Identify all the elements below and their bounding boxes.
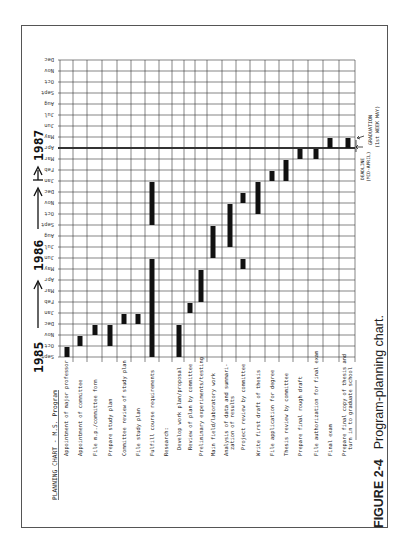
- task-label: turn in to graduate school: [347, 367, 354, 450]
- task-label: Research:: [163, 427, 169, 456]
- task-label: Preliminary experiments/testing: [198, 357, 205, 456]
- task-bar: [228, 204, 233, 247]
- month-label: Nov: [44, 332, 54, 338]
- month-label: Dec: [44, 189, 54, 195]
- task-label: Prepare study plan: [107, 399, 114, 456]
- task-label: Fulfill course requirements: [149, 370, 156, 456]
- task-bar: [241, 259, 246, 269]
- month-label: Oct: [44, 211, 54, 217]
- year-1987: 1987: [31, 130, 46, 161]
- graduation-sublabel: (1st WEEK MAY): [374, 106, 380, 148]
- task-label: Final exam: [327, 424, 333, 456]
- task-bar: [188, 303, 193, 313]
- month-label: Feb: [44, 167, 54, 173]
- month-label: Mar: [44, 288, 54, 294]
- task-bar: [314, 149, 319, 159]
- month-label: Feb: [44, 299, 54, 305]
- figure-caption-text: Program-planning chart.: [372, 315, 386, 449]
- month-label: Sept: [41, 89, 54, 96]
- task-label: Prepare final rough draft: [297, 376, 304, 456]
- task-label: Review of plan by committee: [187, 364, 194, 450]
- task-bar: [136, 314, 141, 324]
- task-bar: [298, 149, 303, 159]
- task-bar: [256, 182, 261, 214]
- task-bar: [211, 226, 216, 258]
- task-bar: [65, 347, 70, 357]
- graduation-label: GRADUATION: [367, 115, 373, 145]
- task-label: Write first draft of thesis: [255, 370, 261, 456]
- task-bar: [150, 259, 155, 357]
- task-label: Develop work plan/proposal: [176, 367, 183, 450]
- year-1985: 1985: [31, 342, 46, 373]
- task-label: File authorization for final exam: [313, 351, 319, 456]
- task-label: Appointment of committee: [77, 379, 84, 456]
- deadline-sublabel: (MID-APRIL): [366, 152, 371, 182]
- task-bar: [177, 325, 182, 357]
- month-label: Dec: [44, 321, 54, 327]
- month-label: Jan: [44, 310, 54, 316]
- task-bar: [78, 336, 83, 346]
- task-label: File study plan: [135, 408, 142, 456]
- task-bar: [270, 171, 275, 181]
- task-label: File m.p./committee form: [92, 379, 99, 456]
- task-label: Project review by committee: [240, 364, 247, 450]
- task-label: zation of results: [229, 396, 235, 450]
- task-bar: [150, 182, 155, 225]
- month-label: Jan: [44, 178, 54, 184]
- graduation-annotation: GRADUATION (1st WEEK MAY): [356, 106, 380, 152]
- deadline-label: DEADLINE: [360, 158, 365, 180]
- month-label: Aug: [44, 100, 54, 107]
- month-label: Nov: [44, 200, 54, 206]
- task-labels: Appointment of major professorAppointmen…: [63, 351, 356, 456]
- task-label: Appointment of major professor: [63, 360, 70, 456]
- task-bar: [93, 325, 98, 335]
- figure-label: FIGURE 2-4: [372, 459, 386, 528]
- task-bar: [284, 160, 289, 181]
- task-label: Main field/laboratory work: [210, 372, 217, 456]
- year-1986: 1986: [31, 240, 46, 271]
- month-label: Aug: [44, 232, 54, 239]
- month-label: Jul: [44, 112, 54, 118]
- month-label: Sept: [41, 221, 54, 228]
- planning-chart: SeptOctNovDecJanFebMarAprMayJunJulAugSep…: [0, 0, 408, 541]
- task-bar: [328, 138, 333, 148]
- figure-caption: FIGURE 2-4Program-planning chart.: [372, 315, 386, 528]
- month-label: Nov: [44, 68, 54, 74]
- month-label: Dec: [44, 57, 54, 63]
- chart-grid: [58, 60, 355, 362]
- task-label: File application for degree: [269, 370, 276, 456]
- task-bar: [122, 314, 127, 324]
- task-bar: [346, 138, 351, 148]
- month-label: Jun: [44, 123, 54, 129]
- deadline-annotation: DEADLINE (MID-APRIL): [356, 145, 371, 182]
- task-bar: [199, 270, 204, 302]
- month-axis-labels: SeptOctNovDecJanFebMarAprMayJunJulAugSep…: [41, 57, 54, 360]
- task-label: Committee review of study plan: [121, 360, 128, 456]
- task-label: Thesis review by committee: [283, 373, 290, 456]
- month-label: Oct: [44, 79, 54, 85]
- chart-title: PLANNING CHART - M.S. Program: [51, 390, 59, 500]
- task-bar: [241, 193, 246, 203]
- month-label: Apr: [44, 276, 54, 283]
- task-bar: [108, 325, 113, 346]
